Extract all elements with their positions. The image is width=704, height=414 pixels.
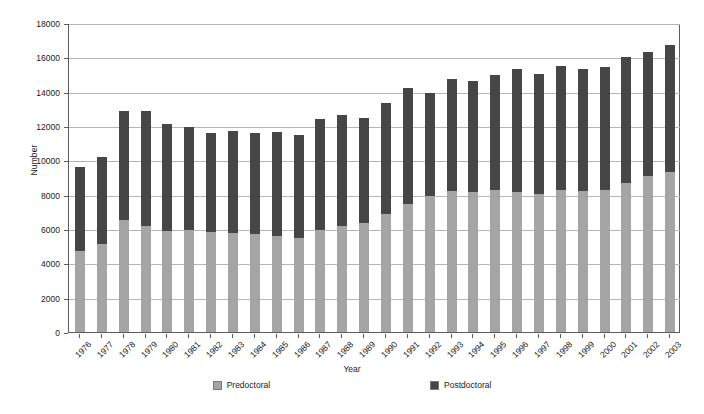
bar-segment-postdoctoral[interactable]: [97, 157, 107, 245]
bar-2002[interactable]: [643, 23, 653, 332]
bar-segment-postdoctoral[interactable]: [468, 81, 478, 192]
bar-segment-predoctoral[interactable]: [97, 244, 107, 332]
bar-segment-predoctoral[interactable]: [534, 194, 544, 332]
bar-segment-postdoctoral[interactable]: [141, 111, 151, 227]
bar-segment-predoctoral[interactable]: [75, 251, 85, 332]
y-tick-label: 4000: [0, 260, 60, 269]
bar-segment-postdoctoral[interactable]: [665, 45, 675, 171]
bar-segment-predoctoral[interactable]: [512, 192, 522, 332]
bar-1997[interactable]: [534, 23, 544, 332]
bar-segment-predoctoral[interactable]: [381, 214, 391, 332]
bar-1987[interactable]: [315, 23, 325, 332]
bar-segment-predoctoral[interactable]: [228, 233, 238, 332]
y-tick-label: 8000: [0, 192, 60, 201]
bar-1979[interactable]: [141, 23, 151, 332]
x-tick-mark: [254, 334, 255, 338]
bar-segment-predoctoral[interactable]: [141, 226, 151, 332]
bar-segment-postdoctoral[interactable]: [447, 79, 457, 191]
bar-segment-postdoctoral[interactable]: [403, 88, 413, 204]
bar-2000[interactable]: [600, 23, 610, 332]
bar-segment-predoctoral[interactable]: [294, 238, 304, 332]
bar-1976[interactable]: [75, 23, 85, 332]
bar-segment-predoctoral[interactable]: [162, 231, 172, 332]
bar-1998[interactable]: [556, 23, 566, 332]
bar-1995[interactable]: [490, 23, 500, 332]
bar-segment-predoctoral[interactable]: [337, 226, 347, 332]
bar-1988[interactable]: [337, 23, 347, 332]
bar-1985[interactable]: [272, 23, 282, 332]
bar-segment-postdoctoral[interactable]: [250, 133, 260, 234]
bar-segment-postdoctoral[interactable]: [294, 135, 304, 237]
bar-segment-postdoctoral[interactable]: [315, 119, 325, 230]
bar-segment-postdoctoral[interactable]: [556, 66, 566, 190]
y-tick-label: 12000: [0, 123, 60, 132]
bar-segment-postdoctoral[interactable]: [75, 167, 85, 251]
bar-segment-predoctoral[interactable]: [490, 190, 500, 332]
bar-segment-predoctoral[interactable]: [119, 220, 129, 332]
bar-segment-postdoctoral[interactable]: [600, 67, 610, 191]
bar-segment-predoctoral[interactable]: [403, 204, 413, 332]
bar-segment-predoctoral[interactable]: [621, 183, 631, 332]
x-tick-mark: [123, 334, 124, 338]
x-tick-mark: [385, 334, 386, 338]
bar-segment-postdoctoral[interactable]: [228, 131, 238, 233]
y-tick-mark: [64, 127, 68, 128]
x-tick-mark: [232, 334, 233, 338]
bar-segment-postdoctoral[interactable]: [643, 52, 653, 176]
bar-segment-predoctoral[interactable]: [468, 192, 478, 332]
bar-segment-predoctoral[interactable]: [206, 232, 216, 332]
bar-segment-postdoctoral[interactable]: [621, 57, 631, 182]
bar-segment-predoctoral[interactable]: [315, 230, 325, 332]
x-tick-mark: [494, 334, 495, 338]
bar-2003[interactable]: [665, 23, 675, 332]
bar-segment-postdoctoral[interactable]: [359, 118, 369, 223]
y-tick-label: 16000: [0, 54, 60, 63]
legend-label-postdoctoral: Postdoctoral: [444, 381, 491, 390]
bar-segment-postdoctoral[interactable]: [381, 103, 391, 214]
bar-segment-postdoctoral[interactable]: [578, 69, 588, 192]
bar-1996[interactable]: [512, 23, 522, 332]
bar-segment-predoctoral[interactable]: [425, 196, 435, 332]
bar-1993[interactable]: [447, 23, 457, 332]
bar-segment-predoctoral[interactable]: [359, 223, 369, 332]
bar-segment-postdoctoral[interactable]: [534, 74, 544, 194]
bar-1980[interactable]: [162, 23, 172, 332]
y-tick-mark: [64, 196, 68, 197]
bar-1989[interactable]: [359, 23, 369, 332]
y-tick-label: 2000: [0, 295, 60, 304]
bar-segment-predoctoral[interactable]: [272, 236, 282, 332]
bar-segment-postdoctoral[interactable]: [425, 93, 435, 195]
bar-1990[interactable]: [381, 23, 391, 332]
bar-segment-predoctoral[interactable]: [556, 190, 566, 332]
bar-segment-predoctoral[interactable]: [184, 230, 194, 332]
bar-1984[interactable]: [250, 23, 260, 332]
bar-segment-predoctoral[interactable]: [578, 191, 588, 332]
bar-segment-postdoctoral[interactable]: [337, 115, 347, 226]
x-axis-title: Year: [0, 364, 704, 374]
bar-segment-postdoctoral[interactable]: [162, 124, 172, 230]
bar-1982[interactable]: [206, 23, 216, 332]
legend-entry-predoctoral: Predoctoral: [213, 381, 270, 390]
bar-1978[interactable]: [119, 23, 129, 332]
bar-2001[interactable]: [621, 23, 631, 332]
bar-segment-predoctoral[interactable]: [665, 172, 675, 333]
bar-segment-predoctoral[interactable]: [447, 191, 457, 332]
bar-1999[interactable]: [578, 23, 588, 332]
bar-segment-predoctoral[interactable]: [250, 234, 260, 332]
bar-1981[interactable]: [184, 23, 194, 332]
bar-1992[interactable]: [425, 23, 435, 332]
bar-1991[interactable]: [403, 23, 413, 332]
bar-1983[interactable]: [228, 23, 238, 332]
bar-1986[interactable]: [294, 23, 304, 332]
bar-1977[interactable]: [97, 23, 107, 332]
bar-segment-postdoctoral[interactable]: [512, 69, 522, 193]
bar-segment-predoctoral[interactable]: [600, 190, 610, 332]
bar-segment-postdoctoral[interactable]: [119, 111, 129, 220]
bar-segment-postdoctoral[interactable]: [272, 132, 282, 236]
bar-1994[interactable]: [468, 23, 478, 332]
bar-segment-postdoctoral[interactable]: [490, 75, 500, 191]
bar-segment-predoctoral[interactable]: [643, 176, 653, 332]
bar-segment-postdoctoral[interactable]: [206, 133, 216, 233]
legend-label-predoctoral: Predoctoral: [227, 381, 270, 390]
bar-segment-postdoctoral[interactable]: [184, 127, 194, 230]
